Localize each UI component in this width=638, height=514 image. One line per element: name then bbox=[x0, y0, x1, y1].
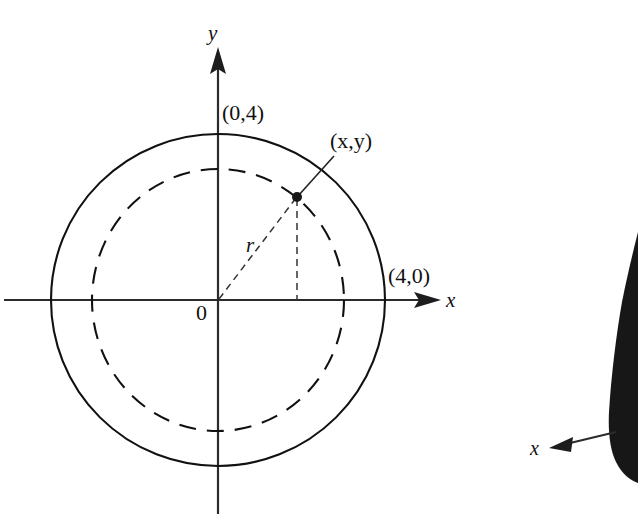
partial-x-axis-label: x bbox=[529, 437, 539, 459]
radius-label: r bbox=[246, 233, 255, 257]
y-intercept-label: (0,4) bbox=[222, 100, 264, 125]
figure-root: x y x bbox=[0, 0, 638, 514]
x-intercept-label: (4,0) bbox=[388, 263, 430, 288]
dark-region-shape bbox=[609, 232, 638, 483]
x-axis-label: x bbox=[445, 288, 456, 312]
partial-x-axis-arrowhead-icon bbox=[549, 437, 573, 452]
radius-segment bbox=[219, 198, 296, 299]
y-axis-label: y bbox=[206, 21, 218, 45]
partial-x-axis-arrow-shaft bbox=[566, 432, 616, 444]
circle-diagram-canvas: x y x bbox=[0, 0, 638, 514]
origin-label: 0 bbox=[196, 300, 207, 325]
partial-figure-right: x bbox=[529, 232, 638, 483]
point-label: (x,y) bbox=[330, 128, 372, 153]
point-marker-dot bbox=[292, 192, 302, 202]
